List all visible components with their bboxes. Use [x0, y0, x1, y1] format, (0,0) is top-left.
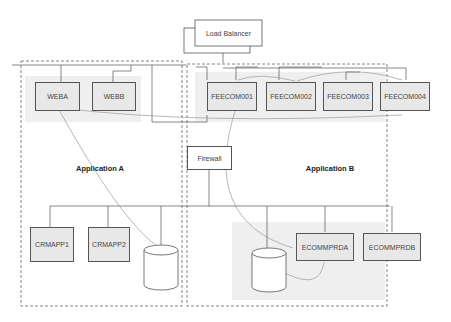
- server-feecom004: FEECOM004: [380, 82, 430, 111]
- server-feecom001: FEECOM001: [207, 82, 257, 111]
- load-balancer-label: Load Balancer: [195, 20, 262, 46]
- database-a-icon: [144, 245, 178, 290]
- server-crmapp2: CRMAPP2: [88, 227, 130, 262]
- zone-label-application-b: Application B: [290, 162, 370, 174]
- server-ecommprda: ECOMMPRDA: [296, 233, 354, 261]
- zone-label-application-a: Application A: [60, 162, 140, 174]
- server-feecom002: FEECOM002: [266, 82, 316, 111]
- server-weba: WEBA: [35, 82, 80, 111]
- server-webb: WEBB: [92, 82, 136, 111]
- firewall-box: Firewall: [187, 146, 232, 170]
- server-crmapp1: CRMAPP1: [30, 227, 74, 262]
- server-ecommprdb: ECOMMPRDB: [363, 233, 421, 261]
- database-b-icon: [252, 248, 286, 292]
- server-feecom003: FEECOM003: [323, 82, 373, 111]
